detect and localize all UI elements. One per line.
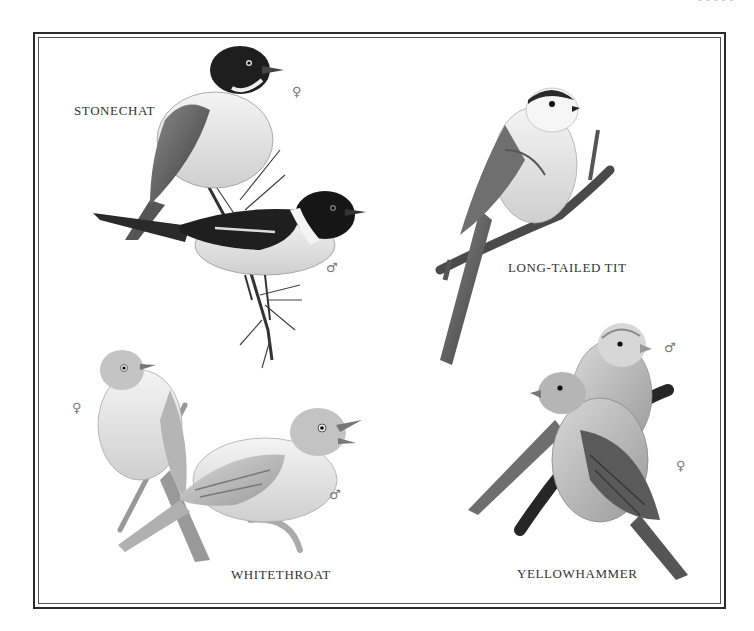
- yellowhammer-male-symbol: ♂: [664, 340, 676, 355]
- stonechat-male-symbol: ♂: [326, 260, 338, 275]
- stonechat-female-symbol: ♀: [292, 84, 302, 99]
- long-tailed-tit-illustration: [440, 88, 580, 365]
- stonechat-male-illustration: [93, 191, 366, 320]
- species-label-long-tailed-tit: LONG-TAILED TIT: [508, 260, 627, 276]
- whitethroat-female-symbol: ♀: [72, 400, 82, 415]
- whitethroat-male-symbol: ♂: [329, 487, 341, 502]
- yellowhammer-female-symbol: ♀: [676, 458, 686, 473]
- species-label-whitethroat: WHITETHROAT: [231, 567, 331, 583]
- yellowhammer-female-illustration: [530, 372, 688, 580]
- bird-illustrations: [0, 0, 754, 631]
- species-label-yellowhammer: YELLOWHAMMER: [517, 566, 638, 582]
- species-label-stonechat: STONECHAT: [74, 103, 155, 119]
